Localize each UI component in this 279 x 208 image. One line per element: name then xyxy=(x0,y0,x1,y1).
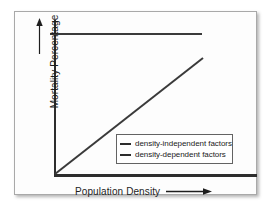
figure-panel: Mortality Percentage Population Density … xyxy=(14,11,257,195)
y-axis-label-group: Mortality Percentage xyxy=(0,18,59,176)
figure-container: Mortality Percentage Population Density … xyxy=(0,0,279,208)
right-arrow-icon xyxy=(166,182,212,200)
up-arrow-icon xyxy=(35,18,44,58)
series-line-density-independent xyxy=(50,33,202,35)
plot-area: Mortality Percentage Population Density … xyxy=(15,12,258,196)
legend-item: density-dependent factors xyxy=(120,149,228,160)
legend-item-label: density-dependent factors xyxy=(135,150,226,159)
legend-swatch-icon xyxy=(120,154,131,156)
legend-item-label: density-independent factors xyxy=(135,139,232,148)
x-axis-label: Population Density xyxy=(75,186,160,197)
legend-item: density-independent factors xyxy=(120,138,228,149)
x-axis-label-group: Population Density xyxy=(75,182,212,200)
x-axis-line xyxy=(54,174,257,177)
legend-swatch-icon xyxy=(120,143,131,145)
legend: density-independent factors density-depe… xyxy=(116,134,233,164)
y-axis-label: Mortality Percentage xyxy=(49,2,60,122)
